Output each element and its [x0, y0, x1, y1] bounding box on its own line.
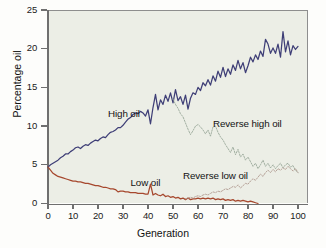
series-label-reverse-high-oil: Reverse high oil: [213, 118, 282, 129]
series-label-low-oil: Low oil: [131, 177, 161, 188]
y-axis-title: Percentage oil: [11, 24, 23, 144]
x-axis-title: Generation: [0, 227, 326, 239]
chart-figure: 0510152025 0102030405060708090100 High o…: [0, 0, 326, 248]
series-label-high-oil: High oil: [108, 108, 140, 119]
series-line-reverse-high-oil: [173, 99, 298, 173]
series-label-reverse-low-oil: Reverse low oil: [183, 170, 248, 181]
